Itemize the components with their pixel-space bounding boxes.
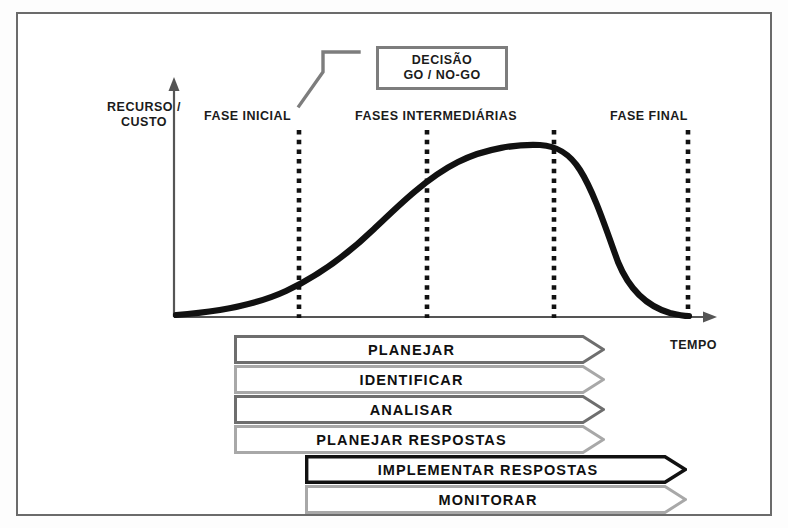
x-axis-label: TEMPO [670, 338, 717, 352]
process-bar-label: PLANEJAR RESPOSTAS [316, 432, 506, 448]
process-bar-label: MONITORAR [438, 492, 537, 508]
decision-gate-line1: DECISÃO [412, 53, 472, 68]
y-axis-label: RECURSO / CUSTO [102, 100, 186, 130]
process-bar-identificar[interactable]: IDENTIFICAR [234, 365, 605, 394]
phase-label-intermediarias: FASES INTERMEDIÁRIAS [355, 109, 517, 123]
decision-gate-line2: GO / NO-GO [403, 68, 480, 83]
process-bar-planejar-respostas[interactable]: PLANEJAR RESPOSTAS [234, 425, 605, 454]
resource-cost-curve [176, 145, 689, 316]
diagram-frame: RECURSO / CUSTO TEMPO FASE INICIAL FASES… [16, 12, 772, 516]
phase-label-final: FASE FINAL [610, 109, 688, 123]
process-bar-label: IMPLEMENTAR RESPOSTAS [378, 462, 599, 478]
x-axis [174, 312, 717, 323]
y-axis-label-line2: CUSTO [121, 115, 167, 129]
decision-gate-connector [299, 52, 359, 106]
decision-gate-box: DECISÃO GO / NO-GO [376, 46, 508, 90]
process-bar-label: IDENTIFICAR [360, 372, 464, 388]
process-bar-label: ANALISAR [370, 402, 454, 418]
process-bar-label: PLANEJAR [368, 342, 455, 358]
phase-label-inicial: FASE INICIAL [204, 109, 291, 123]
y-axis-label-line1: RECURSO / [107, 100, 181, 114]
process-bar-analisar[interactable]: ANALISAR [234, 395, 605, 424]
process-bar-planejar[interactable]: PLANEJAR [234, 335, 605, 364]
process-bar-monitorar[interactable]: MONITORAR [305, 485, 687, 514]
process-bar-implementar-respostas[interactable]: IMPLEMENTAR RESPOSTAS [305, 455, 687, 484]
phase-divider-lines [299, 130, 688, 318]
